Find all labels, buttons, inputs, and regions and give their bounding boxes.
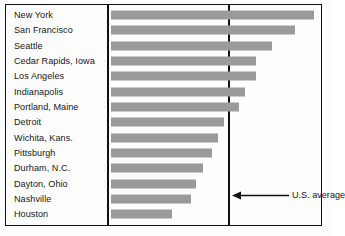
category-label: Houston xyxy=(14,209,48,219)
chart-row: Los Angeles xyxy=(0,69,333,84)
bar xyxy=(111,118,224,127)
chart-row: Durham, N.C. xyxy=(0,161,333,176)
category-label: Wichita, Kans. xyxy=(14,133,73,143)
chart-row: Wichita, Kans. xyxy=(0,130,333,145)
bar xyxy=(111,72,256,81)
bar xyxy=(111,179,196,188)
category-label: Seattle xyxy=(14,41,43,51)
category-label: New York xyxy=(14,10,53,20)
bar xyxy=(111,210,172,219)
bar xyxy=(111,164,203,173)
us-average-label: U.S. average xyxy=(292,190,345,200)
left-arrow-icon xyxy=(232,190,290,201)
bar xyxy=(111,149,212,158)
category-label: Cedar Rapids, Iowa xyxy=(14,56,95,66)
us-average-annotation: U.S. average xyxy=(232,189,345,201)
bar xyxy=(111,41,272,50)
chart-row: Indianapolis xyxy=(0,84,333,99)
bar xyxy=(111,57,256,66)
bar xyxy=(111,26,295,35)
chart-row: San Francisco xyxy=(0,23,333,38)
chart-row: Detroit xyxy=(0,115,333,130)
bar xyxy=(111,87,245,96)
bar xyxy=(111,133,218,142)
chart-row: Houston xyxy=(0,207,333,222)
category-label: Portland, Maine xyxy=(14,102,78,112)
chart-row: New York xyxy=(0,8,333,23)
category-label: Durham, N.C. xyxy=(14,163,70,173)
category-label: Detroit xyxy=(14,117,41,127)
category-label: San Francisco xyxy=(14,25,73,35)
category-label: Los Angeles xyxy=(14,71,64,81)
category-label: Nashville xyxy=(14,194,51,204)
bar xyxy=(111,11,314,20)
chart-row: Seattle xyxy=(0,38,333,53)
category-label: Dayton, Ohio xyxy=(14,179,68,189)
chart-row: Pittsburgh xyxy=(0,145,333,160)
bar xyxy=(111,103,239,112)
chart-row: Cedar Rapids, Iowa xyxy=(0,53,333,68)
category-label: Indianapolis xyxy=(14,87,63,97)
bar xyxy=(111,194,191,203)
category-label: Pittsburgh xyxy=(14,148,55,158)
chart-row: Portland, Maine xyxy=(0,99,333,114)
